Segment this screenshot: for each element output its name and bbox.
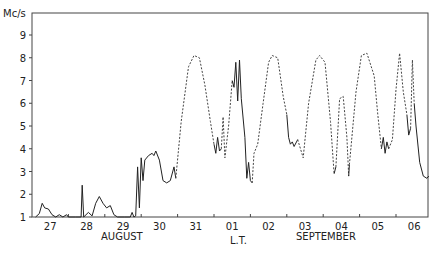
- y-tick-label: 1: [20, 212, 26, 223]
- interpolated-line: [336, 96, 349, 176]
- y-tick-label: 2: [20, 189, 26, 200]
- plot-frame: [32, 13, 428, 217]
- y-tick-label: 7: [20, 76, 26, 87]
- interpolated-line: [176, 56, 214, 179]
- interpolated-line: [389, 53, 407, 149]
- y-tick-label: 6: [20, 98, 26, 109]
- observed-line: [407, 115, 411, 136]
- interpolated-line: [411, 60, 415, 128]
- y-tick-label: 5: [20, 121, 26, 132]
- frequency-time-chart: 123456789 2728293031010203040506 Mc/s L.…: [0, 0, 439, 257]
- y-tick-label: 4: [20, 144, 26, 155]
- observed-line: [414, 103, 429, 178]
- interpolated-line: [252, 56, 287, 183]
- month-label-august: AUGUST: [101, 231, 144, 242]
- x-tick-label: 06: [408, 221, 421, 232]
- observed-line: [287, 115, 298, 147]
- x-tick-label: 31: [189, 221, 202, 232]
- y-tick-label: 3: [20, 167, 26, 178]
- y-tick-label: 9: [20, 30, 26, 41]
- observed-line: [381, 137, 388, 153]
- x-tick-label: 01: [226, 221, 239, 232]
- observed-line: [349, 165, 350, 176]
- interpolated-line: [349, 53, 381, 165]
- observed-line: [232, 60, 252, 183]
- axes-frame: [32, 13, 428, 217]
- observed-line: [214, 137, 221, 153]
- x-tick-label: 27: [44, 221, 57, 232]
- y-axis: 123456789: [20, 30, 32, 223]
- observed-line: [36, 151, 176, 217]
- x-tick-label: 30: [153, 221, 166, 232]
- x-unit-label: L.T.: [230, 235, 247, 246]
- y-unit-label: Mc/s: [3, 8, 26, 19]
- interpolated-line: [298, 56, 334, 174]
- x-tick-label: 05: [371, 221, 384, 232]
- figure-caption-cutoff: [20, 250, 420, 256]
- data-series: [36, 53, 429, 217]
- x-tick-label: 28: [80, 221, 93, 232]
- observed-line: [334, 167, 336, 174]
- x-tick-label: 02: [262, 221, 275, 232]
- y-tick-label: 8: [20, 53, 26, 64]
- interpolated-line: [221, 81, 232, 158]
- month-label-september: SEPTEMBER: [296, 231, 356, 242]
